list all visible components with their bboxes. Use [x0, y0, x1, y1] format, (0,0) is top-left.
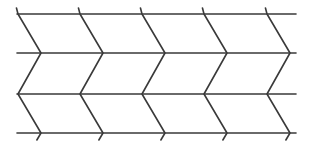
zigzag-column-1 — [16, 8, 41, 140]
zigzag-diagram — [0, 0, 311, 152]
zigzag-column-5 — [265, 8, 290, 140]
zigzag-column-2 — [78, 8, 103, 140]
zigzag-column-3 — [140, 8, 165, 140]
zigzag-column-4 — [202, 8, 227, 140]
zigzag-pattern-svg — [0, 0, 311, 152]
